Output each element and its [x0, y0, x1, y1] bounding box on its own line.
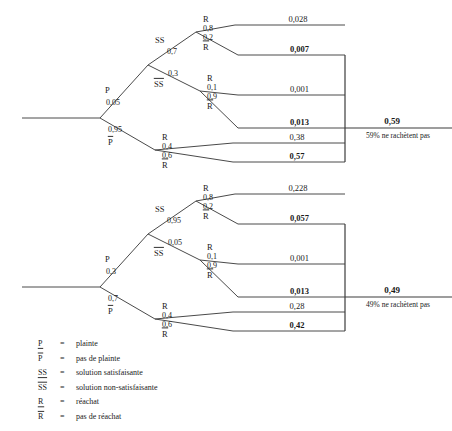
tree-bottom-label-ss: SS [155, 204, 165, 214]
tree-bottom-leaf-prob-2: 0,1 [207, 252, 217, 261]
legend-equals-1: = [60, 354, 65, 363]
tree-bottom-leaf-value-0: 0,228 [288, 183, 307, 193]
tree-bottom-prob-pbar: 0,7 [108, 294, 118, 303]
tree-top-prob-p: 0,05 [106, 98, 120, 107]
tree-top-prob-ss: 0,7 [167, 47, 177, 56]
tree-bottom-label-ssbar: SS [154, 248, 164, 258]
tree-bottom-prob-ss: 0,95 [167, 216, 181, 225]
tree-bottom-final-note: 49% ne rachètent pas [366, 300, 430, 309]
tree-top-label-pbar: P [108, 137, 113, 147]
legend-text-2: solution satisfaisante [76, 368, 143, 377]
tree-top-leaf-value-5: 0,57 [290, 151, 306, 161]
tree-bottom-prob-ssbar: 0,05 [168, 238, 182, 247]
decision-tree-svg: P0,050,95PSS0,70,3SSR0,80,0280,2R0,007R0… [0, 0, 452, 431]
tree-top-prob-pbar: 0,95 [108, 125, 122, 134]
tree-top-leaf-value-1: 0,007 [290, 44, 310, 54]
legend-symbol-2: SS [38, 368, 47, 377]
tree-top-final-value: 0,59 [384, 116, 400, 126]
tree-top-leaf-node-4: R [162, 132, 168, 142]
tree-bottom-label-pbar: P [108, 306, 113, 316]
tree-top-edge-leaf-3 [200, 91, 238, 128]
tree-bottom-edge-leaf-2 [200, 260, 238, 264]
tree-bottom-label-p: P [105, 254, 110, 264]
legend-equals-5: = [60, 412, 65, 421]
legend-equals-3: = [60, 383, 65, 392]
tree-top-leaf-prob-3: 0,9 [207, 92, 217, 101]
legend-symbol-5: R [38, 412, 44, 421]
legend-symbol-1: P [38, 354, 43, 363]
tree-bottom-leaf-prob-5: 0,6 [162, 320, 172, 329]
legend-text-5: pas de réachat [76, 412, 122, 421]
tree-bottom-leaf-node-1: R [203, 211, 209, 221]
tree-bottom-edge-leaf-0 [196, 194, 235, 201]
tree-top-leaf-prob-2: 0,1 [207, 83, 217, 92]
legend-text-4: réachat [76, 397, 100, 406]
tree-top-leaf-value-3: 0,013 [290, 117, 309, 127]
tree-bottom-leaf-value-1: 0,057 [290, 213, 310, 223]
tree-bottom-leaf-node-0: R [203, 183, 209, 193]
tree-top-leaf-value-4: 0,38 [290, 132, 305, 142]
tree-bottom-leaf-node-3: R [207, 270, 213, 280]
tree-bottom-leaf-value-5: 0,42 [290, 320, 305, 330]
tree-top-edge-leaf-2 [200, 91, 238, 95]
tree-top-edge-leaf-0 [196, 25, 235, 32]
tree-bottom-edge-leaf-3 [200, 260, 238, 297]
tree-top-prob-ssbar: 0,3 [168, 69, 178, 78]
tree-bottom-leaf-prob-0: 0,8 [203, 193, 213, 202]
legend-equals-2: = [60, 368, 65, 377]
tree-bottom-leaf-node-5: R [162, 329, 168, 339]
tree-top-leaf-node-5: R [162, 160, 168, 170]
tree-top-leaf-prob-0: 0,8 [203, 24, 213, 33]
tree-top-leaf-node-0: R [203, 14, 209, 24]
tree-top-leaf-node-3: R [207, 101, 213, 111]
tree-top-leaf-value-0: 0,028 [288, 14, 307, 24]
legend-equals-4: = [60, 397, 65, 406]
tree-top-leaf-node-2: R [207, 73, 213, 83]
tree-bottom-leaf-prob-1: 0,2 [203, 202, 213, 211]
legend-symbol-3: SS [38, 383, 47, 392]
legend-equals-0: = [60, 339, 65, 348]
tree-bottom-final-value: 0,49 [384, 285, 400, 295]
tree-bottom-leaf-node-4: R [162, 301, 168, 311]
tree-top-leaf-value-2: 0,001 [290, 84, 309, 94]
tree-top-label-ss: SS [155, 35, 165, 45]
legend-symbol-4: R [38, 397, 44, 406]
tree-bottom-leaf-value-3: 0,013 [290, 286, 309, 296]
tree-top-final-note: 59% ne rachètent pas [366, 131, 430, 140]
decision-tree-diagram: P0,050,95PSS0,70,3SSR0,80,0280,2R0,007R0… [0, 0, 452, 431]
tree-bottom-leaf-node-2: R [207, 242, 213, 252]
tree-top-leaf-prob-5: 0,6 [162, 151, 172, 160]
legend-text-1: pas de plainte [76, 354, 120, 363]
tree-top-leaf-node-1: R [203, 42, 209, 52]
tree-top-label-p: P [105, 85, 110, 95]
tree-bottom-prob-p: 0,3 [106, 267, 116, 276]
tree-bottom-leaf-prob-3: 0,9 [207, 261, 217, 270]
tree-bottom-leaf-prob-4: 0,4 [162, 311, 172, 320]
legend-symbol-0: P [38, 339, 43, 348]
legend-text-3: solution non-satisfaisante [76, 383, 158, 392]
tree-bottom-leaf-value-2: 0,001 [290, 253, 309, 263]
tree-top-leaf-prob-4: 0,4 [162, 142, 172, 151]
legend-text-0: plainte [76, 339, 98, 348]
tree-bottom-leaf-value-4: 0,28 [290, 301, 305, 311]
tree-top-label-ssbar: SS [154, 79, 164, 89]
tree-top-leaf-prob-1: 0,2 [203, 33, 213, 42]
